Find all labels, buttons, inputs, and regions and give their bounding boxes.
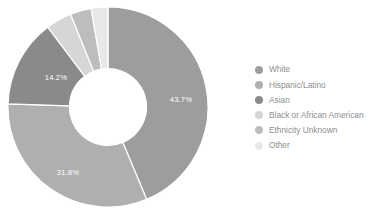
legend-item-label: White xyxy=(269,65,290,73)
legend-item[interactable]: Asian xyxy=(255,92,381,107)
legend-item-label: Hispanic/Latino xyxy=(269,81,326,89)
legend-swatch-circle-icon xyxy=(255,126,263,134)
slice-percentage-label: 31.8% xyxy=(57,168,79,177)
legend-item-label: Ethnicity Unknown xyxy=(269,126,337,134)
donut-plot-area: 43.7%31.8%14.2% xyxy=(6,5,210,209)
legend-swatch-circle-icon xyxy=(255,66,263,74)
chart-legend: WhiteHispanic/LatinoAsianBlack or Africa… xyxy=(255,62,381,153)
legend-item-label: Black or African American xyxy=(269,111,364,119)
legend-item-label: Other xyxy=(269,141,290,149)
legend-swatch-circle-icon xyxy=(255,111,263,119)
donut-slice[interactable] xyxy=(8,104,147,207)
legend-swatch-circle-icon xyxy=(255,96,263,104)
slice-percentage-label: 43.7% xyxy=(170,95,192,104)
legend-item[interactable]: White xyxy=(255,62,381,77)
legend-item[interactable]: Other xyxy=(255,138,381,153)
donut-slice-group xyxy=(8,7,208,207)
legend-swatch-circle-icon xyxy=(255,81,263,89)
donut-svg: 43.7%31.8%14.2% xyxy=(6,5,210,209)
ethnicity-donut-chart: 43.7%31.8%14.2% WhiteHispanic/LatinoAsia… xyxy=(0,0,383,213)
legend-item[interactable]: Black or African American xyxy=(255,108,381,123)
legend-swatch-circle-icon xyxy=(255,142,263,150)
legend-item-label: Asian xyxy=(269,96,290,104)
legend-item[interactable]: Hispanic/Latino xyxy=(255,77,381,92)
slice-percentage-label: 14.2% xyxy=(45,73,67,82)
legend-item[interactable]: Ethnicity Unknown xyxy=(255,123,381,138)
